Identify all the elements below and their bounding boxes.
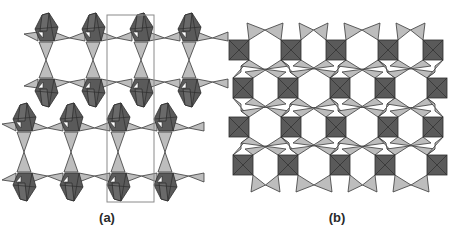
tetrahedron [411,175,429,192]
tetrahedron [241,60,264,69]
tetrahedron [17,152,31,172]
crystal-structure-figure [0,0,456,241]
octahedron-square [378,40,398,60]
octahedron [178,79,201,107]
tetrahedron [342,146,364,155]
tetrahedron [314,23,329,40]
tetrahedron [435,137,443,146]
tetrahedron [387,69,409,78]
tetrahedron [312,137,334,146]
panel-label-b: (b) [329,210,346,225]
octahedron [107,173,130,201]
tetrahedron [134,60,148,78]
tetrahedron [117,32,133,41]
tetrahedron [17,132,31,152]
octahedron [60,103,83,131]
tetrahedron [390,60,413,69]
layer-2 [2,103,204,201]
tetrahedron [293,108,316,118]
octahedron-square [330,78,350,98]
tetrahedron [241,108,264,118]
tetrahedron [312,60,334,69]
tetrahedron [48,173,64,182]
tetrahedron [134,42,148,60]
layer-1 [24,13,228,107]
octahedron-square [375,78,395,98]
octahedron [107,103,130,131]
octahedron [13,173,36,201]
tetrahedron [390,108,413,118]
tetrahedron [387,98,409,108]
tetrahedron [39,60,53,78]
panel-label-a: (a) [99,210,115,225]
tetrahedron [435,60,443,69]
tetrahedron [86,60,100,78]
tetrahedron [70,32,86,41]
tetrahedron [251,175,266,192]
tetrahedron [70,79,86,88]
tetrahedron [338,137,361,146]
octahedron-square [330,155,350,175]
tetrahedron [290,146,312,155]
tetrahedron [390,137,413,146]
tetrahedron [264,69,287,78]
octahedron-square [375,155,395,175]
octahedron-square [278,155,298,175]
tetrahedron [342,98,364,108]
octahedron-square [326,40,346,60]
octahedron-square [326,117,346,137]
tetrahedron [312,108,334,118]
tetrahedron [245,69,267,78]
octahedron-square [229,117,249,137]
tetrahedron [409,108,431,118]
tetrahedron [362,23,380,40]
tetrahedron [245,98,267,108]
tetrahedron [2,173,16,182]
octahedron [60,173,83,201]
tetrahedron [111,152,125,172]
tetrahedron [290,69,312,78]
octahedron [154,103,177,131]
tetrahedron [213,32,229,41]
octahedron-square [423,40,443,60]
tetrahedron [411,23,426,40]
octahedron [82,13,105,41]
tetrahedron [158,152,172,172]
octahedron-square [423,117,443,137]
tetrahedron [396,23,411,40]
tetrahedron [265,23,283,40]
tetrahedron [86,42,100,60]
octahedron-square [281,40,301,60]
tetrahedron [48,122,64,131]
tetrahedron [95,173,111,182]
tetrahedron [24,79,38,88]
octahedron-square [233,155,253,175]
tetrahedron [299,23,314,40]
octahedron-square [427,155,447,175]
tetrahedron [64,132,78,152]
tetrahedron [264,146,287,155]
tetrahedron [142,173,158,182]
tetrahedron [117,79,133,88]
tetrahedron [293,137,316,146]
tetrahedron [293,60,316,69]
panel-b-structure [229,23,447,192]
tetrahedron [213,79,229,88]
tetrahedron [165,32,181,41]
tetrahedron [158,132,172,152]
tetrahedron [387,146,409,155]
tetrahedron [409,137,431,146]
tetrahedron [264,98,287,108]
octahedron-square [233,78,253,98]
tetrahedron [182,42,196,60]
octahedron [130,13,153,41]
octahedron-square [378,117,398,137]
octahedron [35,79,58,107]
tetrahedron [24,32,38,41]
tetrahedron [189,122,205,131]
tetrahedron [266,175,281,192]
tetrahedron [342,69,364,78]
tetrahedron [361,146,384,155]
tetrahedron [247,23,265,40]
octahedron-square [281,117,301,137]
